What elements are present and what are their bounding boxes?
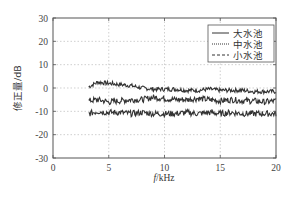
line-chart: 3020100-10-20-30 05101520 f/kHz 修正量/dB 大… [0,0,294,203]
y-tick-label: -30 [35,154,48,164]
legend-label-medium-pool: 中水池 [233,39,263,50]
y-tick-label: -10 [35,107,48,117]
x-tick-label: 10 [160,163,170,173]
series-line [89,81,276,94]
y-tick-label: 0 [43,84,48,94]
series-line [89,110,276,117]
y-tick-label: 10 [39,60,49,70]
legend-label-large-pool: 大水池 [233,28,263,39]
y-tick-label: -20 [35,130,48,140]
series-line [89,95,276,105]
y-tick-label: 20 [39,37,49,47]
y-tick-label: 30 [39,14,49,24]
x-tick-label: 0 [51,163,56,173]
legend: 大水池 中水池 小水池 [208,25,274,62]
legend-label-small-pool: 小水池 [233,50,263,61]
x-tick-label: 5 [106,163,111,173]
y-axis-label: 修正量/dB [12,65,23,111]
x-tick-label: 20 [271,163,281,173]
x-tick-label: 15 [216,163,226,173]
x-axis-label: f/kHz [153,173,174,183]
